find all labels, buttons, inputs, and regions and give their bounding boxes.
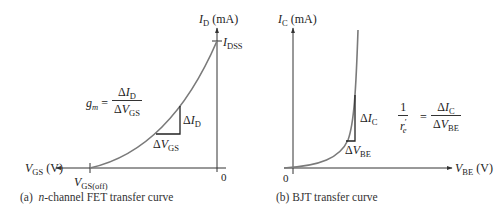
bjt-re-lhs-fraction: 1 r′e [398, 101, 408, 132]
fet-delta-vgs-symbol: V [161, 137, 168, 151]
re-num-delta: Δ [437, 100, 445, 114]
bjt-delta-vbe-label: ΔVBE [345, 144, 371, 156]
bjt-ic-axis-label: IC (mA) [278, 13, 317, 25]
re-rhs-denominator: ΔVBE [431, 116, 461, 130]
transfer-curves-figure: ID (mA) IDSS VGS (V) VGS(off) 0 gm = ΔID… [0, 0, 500, 216]
bjt-delta-vbe-sub: BE [360, 149, 371, 159]
bjt-delta-ic-sub: C [372, 117, 378, 127]
gm-denominator: ΔVGS [112, 101, 142, 115]
bjt-vbe-sub: BE [462, 167, 473, 177]
bjt-ic-unit: (mA) [291, 12, 317, 26]
bjt-delta-ic-delta: Δ [360, 111, 368, 125]
fet-vgs-unit: (V) [46, 161, 63, 175]
re-lhs-numerator: 1 [398, 101, 408, 115]
bjt-formula-equals: = [420, 111, 427, 123]
fet-delta-id-label: ΔID [183, 114, 201, 126]
bjt-re-rhs-fraction: ΔIC ΔVBE [431, 101, 461, 130]
re-den-sub: BE [448, 123, 459, 133]
fet-caption-rest: -channel FET transfer curve [44, 191, 173, 203]
fet-gm-lhs: gm = [86, 97, 108, 109]
bjt-caption-text: (b) BJT transfer curve [276, 191, 378, 203]
gm-num-delta: Δ [118, 85, 126, 99]
fet-vgsoff-label: VGS(off) [74, 176, 108, 188]
fet-id-axis-label: ID (mA) [199, 13, 238, 25]
bjt-origin-label: 0 [283, 173, 289, 184]
re-den-delta: Δ [433, 117, 441, 131]
fet-delta-vgs-delta: Δ [153, 137, 161, 151]
fet-delta-vgs-label: ΔVGS [153, 138, 179, 150]
fet-origin-text: 0 [221, 171, 227, 183]
bjt-delta-ic-label: ΔIC [360, 112, 377, 124]
fet-vgsoff-sub: GS(off) [81, 181, 107, 191]
fet-caption-prefix: (a) [20, 191, 33, 203]
re-sub: e [403, 125, 407, 135]
bjt-delta-vbe-symbol: V [353, 143, 360, 157]
gm-equals: = [101, 96, 108, 110]
fet-caption: (a) n-channel FET transfer curve [20, 191, 173, 203]
fet-idss-sub: DSS [227, 41, 243, 51]
bjt-vbe-axis-label: VBE (V) [455, 162, 493, 174]
fet-origin-label: 0 [221, 172, 227, 183]
bjt-origin-text: 0 [283, 172, 289, 184]
re-num-sub: C [449, 106, 455, 116]
fet-gm-fraction: ΔID ΔVGS [112, 86, 142, 115]
bjt-delta-vbe-delta: Δ [345, 143, 353, 157]
gm-den-symbol: V [122, 102, 129, 116]
gm-den-sub: GS [129, 108, 140, 118]
fet-idss-label: IDSS [223, 36, 243, 48]
fet-id-unit: (mA) [212, 12, 238, 26]
fet-vgs-axis-label: VGS (V) [25, 162, 63, 174]
gm-numerator: ΔID [116, 86, 138, 100]
fet-delta-vgs-sub: GS [168, 143, 179, 153]
fet-delta-id-sub: D [195, 119, 201, 129]
bjt-caption: (b) BJT transfer curve [276, 191, 378, 203]
re-rhs-numerator: ΔIC [435, 101, 456, 115]
bjt-ic-sub: C [282, 18, 288, 28]
fet-delta-id-delta: Δ [183, 113, 191, 127]
fet-vgs-sub: GS [32, 167, 43, 177]
gm-den-delta: Δ [114, 102, 122, 116]
gm-sub: m [92, 102, 98, 112]
fet-id-sub: D [203, 18, 209, 28]
re-den-symbol: V [441, 117, 448, 131]
gm-num-sub: D [130, 91, 136, 101]
re-lhs-denominator: r′e [398, 116, 408, 132]
re-equals: = [420, 110, 427, 124]
bjt-vbe-unit: (V) [476, 161, 493, 175]
